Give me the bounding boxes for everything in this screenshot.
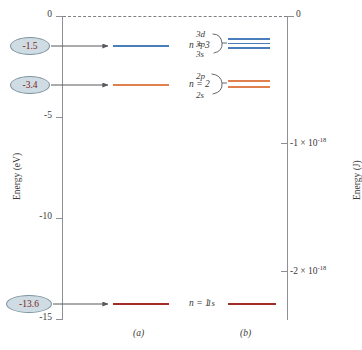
right-axis-line	[287, 16, 288, 320]
left-tick-label-minus10: -10	[20, 211, 52, 221]
right-tick-exponent-2: -18	[318, 264, 327, 271]
panel-caption-b: (b)	[240, 328, 251, 338]
right-tick-mantissa-2: -2 × 10	[290, 266, 318, 276]
sublevel-line-3s	[228, 47, 270, 49]
right-tick-mantissa-1: -1 × 10	[290, 138, 318, 148]
left-tick-label-minus15: -15	[20, 312, 52, 322]
left-tick-minus15	[56, 319, 63, 320]
brace-n2-group	[212, 74, 222, 94]
level-line-n3	[113, 45, 169, 47]
left-tick-minus10	[56, 218, 63, 219]
sublevel-label-3p: 3p	[196, 39, 205, 49]
sublevel-label-3d: 3d	[196, 29, 205, 39]
left-tick-label-minus5: -5	[24, 110, 52, 120]
right-axis-title: Energy (J)	[352, 160, 362, 200]
left-axis-title: Energy (eV)	[12, 153, 22, 200]
level-line-n2	[113, 84, 169, 86]
sublevel-line-3p	[228, 43, 270, 45]
sublevel-label-2p: 2p	[196, 71, 205, 81]
panel-caption-a: (a)	[133, 328, 144, 338]
right-tick-label-minus1e18: -1 × 10-18	[290, 136, 326, 148]
sublevel-line-2p	[228, 80, 270, 82]
left-axis-line	[62, 16, 63, 320]
right-tick-0	[287, 16, 294, 17]
left-tick-minus5	[56, 117, 63, 118]
sublevel-label-1s: 1s	[207, 298, 215, 308]
callout-bubble-minus13point6: -13.6	[6, 295, 52, 313]
right-tick-label-0: 0	[296, 9, 301, 19]
right-tick-minus1e18	[281, 143, 288, 144]
sublevel-label-3s: 3s	[196, 49, 204, 59]
callout-bubble-minus1point5: -1.5	[10, 37, 50, 55]
right-tick-exponent-1: -18	[318, 136, 327, 143]
right-tick-minus2e18	[281, 271, 288, 272]
sublevel-line-2s	[228, 86, 270, 88]
sublevel-line-1s	[228, 303, 276, 305]
level-line-n1	[113, 303, 169, 305]
sublevel-line-3d	[228, 38, 270, 40]
callout-bubble-minus3point4: -3.4	[10, 76, 50, 94]
right-tick-label-minus2e18: -2 × 10-18	[290, 264, 326, 276]
brace-n3-group	[213, 34, 222, 53]
left-tick-label-0: 0	[24, 9, 52, 19]
zero-energy-dashed-line	[63, 16, 287, 17]
sublevel-label-2s: 2s	[196, 90, 204, 100]
left-tick-0	[56, 16, 63, 17]
